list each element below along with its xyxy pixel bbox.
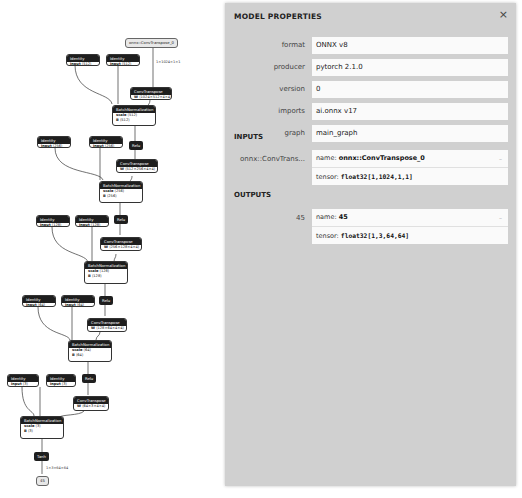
node-title: ConvTranspose xyxy=(88,319,126,326)
node-title: BatchNormalization xyxy=(113,106,155,113)
node-attr: W ⟨512×256×4×4⟩ xyxy=(117,167,157,172)
input-name-line: name: onnx::ConvTranspose_0 – xyxy=(312,150,508,168)
property-label: version xyxy=(279,85,305,93)
input-tensor-type: float32[1,1024,1,1] xyxy=(341,173,413,180)
property-value[interactable]: 0 xyxy=(312,81,508,98)
batchnormalization-node[interactable]: BatchNormalization scale ⟨3⟩ B ⟨3⟩ xyxy=(20,416,64,439)
expand-icon[interactable]: – xyxy=(499,150,502,167)
node-attr: W ⟨1024×512×4×4⟩ xyxy=(131,95,171,100)
inputs-section-title: INPUTS xyxy=(234,133,263,141)
node-attr: input ⟨64⟩ xyxy=(62,303,94,307)
node-title: Identity xyxy=(107,55,139,62)
node-attr: W ⟨128×64×4×4⟩ xyxy=(88,326,126,331)
output-argument[interactable]: name: 45 – tensor: float32[1,3,64,64] xyxy=(312,209,508,244)
node-attr: B ⟨512⟩ xyxy=(113,118,155,123)
node-title: Identity xyxy=(23,296,55,303)
relu-node[interactable]: Relu xyxy=(99,296,113,305)
property-row-version: version 0 xyxy=(225,81,516,99)
batchnormalization-node[interactable]: BatchNormalization scale ⟨512⟩ B ⟨512⟩ xyxy=(112,105,156,126)
output-name-line: name: 45 – xyxy=(312,209,508,227)
node-attr: input ⟨256⟩ xyxy=(38,144,70,148)
property-value[interactable]: pytorch 2.1.0 xyxy=(312,59,508,76)
close-icon[interactable]: × xyxy=(499,8,508,21)
relu-node[interactable]: Relu xyxy=(114,215,128,224)
outputs-section-title: OUTPUTS xyxy=(234,191,271,199)
property-row-producer: producer pytorch 2.1.0 xyxy=(225,59,516,77)
node-attr: input ⟨64⟩ xyxy=(23,303,55,307)
property-value[interactable]: ONNX v8 xyxy=(312,37,508,54)
node-title: Identity xyxy=(38,137,70,144)
node-attr: B ⟨3⟩ xyxy=(21,429,63,434)
property-label: imports xyxy=(278,107,305,115)
property-label: graph xyxy=(285,129,306,137)
graph-output-label: 45 xyxy=(40,478,45,483)
output-tensor-type: float32[1,3,64,64] xyxy=(341,232,409,239)
node-attr: W ⟨256×128×4×4⟩ xyxy=(101,245,141,250)
identity-node[interactable]: Identity input ⟨3⟩ xyxy=(46,374,76,387)
node-attr: input ⟨512⟩ xyxy=(67,62,99,66)
node-attr: B ⟨64⟩ xyxy=(69,353,111,358)
node-attr: B ⟨128⟩ xyxy=(85,274,127,279)
input-argument[interactable]: name: onnx::ConvTranspose_0 – tensor: fl… xyxy=(312,150,508,185)
node-title: Identity xyxy=(90,137,122,144)
relu-node[interactable]: Relu xyxy=(82,374,96,383)
node-attr: input ⟨128⟩ xyxy=(76,223,108,227)
node-title: ConvTranspose xyxy=(117,160,157,167)
node-title: Identity xyxy=(62,296,94,303)
model-properties-panel: MODEL PROPERTIES × format ONNX v8 produc… xyxy=(225,3,516,486)
identity-node[interactable]: Identity input ⟨256⟩ xyxy=(89,136,123,148)
graph-input-node[interactable]: onnx::ConvTranspose_0 xyxy=(125,38,178,48)
output-name: 45 xyxy=(339,213,348,221)
node-title: Identity xyxy=(67,55,99,62)
node-title: BatchNormalization xyxy=(21,417,63,424)
node-title: Identity xyxy=(37,216,69,223)
node-title: BatchNormalization xyxy=(85,262,127,269)
convtranspose-node[interactable]: ConvTranspose W ⟨1024×512×4×4⟩ xyxy=(130,87,172,100)
property-row-imports: imports ai.onnx v17 xyxy=(225,103,516,121)
identity-node[interactable]: Identity input ⟨512⟩ xyxy=(66,54,100,66)
node-attr: input ⟨512⟩ xyxy=(107,62,139,66)
batchnormalization-node[interactable]: BatchNormalization scale ⟨128⟩ B ⟨128⟩ xyxy=(84,261,128,284)
property-row-format: format ONNX v8 xyxy=(225,37,516,55)
edge-shape-label: 1×1024×1×1 xyxy=(156,60,180,64)
batchnormalization-node[interactable]: BatchNormalization scale ⟨64⟩ B ⟨64⟩ xyxy=(68,340,112,362)
edge-shape-label: 1×3×64×64 xyxy=(46,466,68,470)
node-title: ConvTranspose xyxy=(74,397,108,404)
panel-title: MODEL PROPERTIES xyxy=(234,12,322,21)
identity-node[interactable]: Identity input ⟨256⟩ xyxy=(37,136,71,148)
identity-node[interactable]: Identity input ⟨3⟩ xyxy=(7,374,39,387)
node-title: ConvTranspose xyxy=(131,88,171,95)
property-label: producer xyxy=(274,63,305,71)
input-name: onnx::ConvTranspose_0 xyxy=(339,154,425,162)
node-title: BatchNormalization xyxy=(69,341,111,348)
identity-node[interactable]: Identity input ⟨128⟩ xyxy=(36,215,70,227)
input-label: onnx::ConvTrans... xyxy=(240,155,305,163)
identity-node[interactable]: Identity input ⟨64⟩ xyxy=(22,295,56,307)
relu-node[interactable]: Relu xyxy=(129,141,143,150)
node-attr: input ⟨128⟩ xyxy=(37,223,69,227)
convtranspose-node[interactable]: ConvTranspose W ⟨256×128×4×4⟩ xyxy=(100,237,142,251)
node-attr: W ⟨64×3×4×4⟩ xyxy=(74,404,108,409)
identity-node[interactable]: Identity input ⟨512⟩ xyxy=(106,54,140,66)
batchnormalization-node[interactable]: BatchNormalization scale ⟨256⟩ B ⟨256⟩ xyxy=(99,181,143,203)
convtranspose-node[interactable]: ConvTranspose W ⟨64×3×4×4⟩ xyxy=(73,396,109,411)
model-graph-canvas[interactable]: onnx::ConvTranspose_0 1×1024×1×1 Identit… xyxy=(0,0,225,498)
tanh-node[interactable]: Tanh xyxy=(34,452,49,461)
identity-node[interactable]: Identity input ⟨64⟩ xyxy=(61,295,95,307)
convtranspose-node[interactable]: ConvTranspose W ⟨512×256×4×4⟩ xyxy=(116,159,158,173)
property-label: format xyxy=(282,41,305,49)
property-value[interactable]: main_graph xyxy=(312,125,508,142)
node-title: ConvTranspose xyxy=(101,238,141,245)
node-title: BatchNormalization xyxy=(100,182,142,189)
node-title: Identity xyxy=(8,375,38,382)
identity-node[interactable]: Identity input ⟨128⟩ xyxy=(75,215,109,227)
output-tensor-line: tensor: float32[1,3,64,64] xyxy=(312,227,508,244)
property-row-graph: graph main_graph xyxy=(225,125,516,143)
expand-icon[interactable]: – xyxy=(499,209,502,226)
node-attr: input ⟨3⟩ xyxy=(8,382,38,387)
graph-output-node[interactable]: 45 xyxy=(36,476,49,486)
property-value[interactable]: ai.onnx v17 xyxy=(312,103,508,120)
node-attr: input ⟨3⟩ xyxy=(47,382,75,387)
node-attr: B ⟨256⟩ xyxy=(100,194,142,199)
convtranspose-node[interactable]: ConvTranspose W ⟨128×64×4×4⟩ xyxy=(87,318,127,332)
